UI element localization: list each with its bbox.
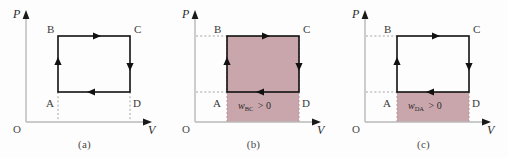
vertex-label-c-b: C — [303, 23, 310, 35]
arrow-bc-a — [93, 32, 101, 39]
dashed-guides-b — [196, 36, 227, 92]
pv-diagram-figure: P V O B C A D (a) — [0, 0, 508, 158]
panel-b: P V O B C A D wBC > 0 (b) — [169, 0, 338, 158]
vertex-label-a-c: A — [383, 97, 391, 109]
y-axis-label-c: P — [351, 7, 360, 21]
panel-a: P V O B C A D (a) — [0, 0, 169, 158]
origin-label-b: O — [182, 123, 190, 135]
y-axis-label-b: P — [181, 7, 190, 21]
arrow-cd-c — [465, 63, 472, 71]
panel-caption-c: (c) — [339, 138, 508, 150]
vertex-label-d-c: D — [472, 97, 480, 109]
arrow-bc-c — [432, 32, 440, 39]
vertex-label-b-b: B — [214, 23, 221, 35]
vertex-label-d-b: D — [302, 97, 310, 109]
panel-c: P V O B C A D wDA > 0 (c) — [339, 0, 508, 158]
dashed-guides-a — [58, 92, 130, 120]
vertex-label-a-b: A — [213, 97, 221, 109]
vertex-label-c-c: C — [473, 23, 480, 35]
arrow-cd-a — [126, 63, 133, 71]
vertex-label-c-a: C — [134, 23, 141, 35]
dashed-guides-c — [366, 36, 397, 92]
vertex-label-d-a: D — [133, 97, 141, 109]
vertex-label-a-a: A — [46, 97, 54, 109]
cycle-path-c — [393, 32, 472, 95]
origin-label-c: O — [352, 123, 360, 135]
vertex-label-b-c: B — [384, 23, 391, 35]
cycle-path-a — [54, 32, 133, 95]
arrow-da-a — [87, 88, 95, 95]
x-axis-label-c: V — [487, 123, 496, 137]
x-axis-label-a: V — [148, 123, 157, 137]
origin-label-a: O — [13, 123, 21, 135]
arrow-ab-c — [393, 57, 400, 65]
vertex-label-b-a: B — [47, 23, 54, 35]
y-axis-label-a: P — [12, 7, 21, 21]
arrow-ab-a — [54, 57, 61, 65]
panel-caption-b: (b) — [169, 138, 338, 150]
x-axis-label-b: V — [317, 123, 326, 137]
panel-caption-a: (a) — [0, 138, 169, 150]
